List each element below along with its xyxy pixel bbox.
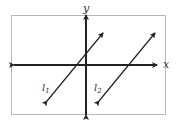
x-axis-label: x <box>163 58 170 71</box>
line-l1-label: l1 <box>42 82 50 95</box>
line-l2 <box>99 33 155 101</box>
line-l1-label-sub: 1 <box>45 87 49 95</box>
y-axis-label: y <box>82 2 90 15</box>
line-l2-label: l2 <box>94 82 102 95</box>
line-l2-label-sub: 2 <box>96 87 102 95</box>
coordinate-plane-diagram: y x l1 l2 <box>0 0 176 122</box>
